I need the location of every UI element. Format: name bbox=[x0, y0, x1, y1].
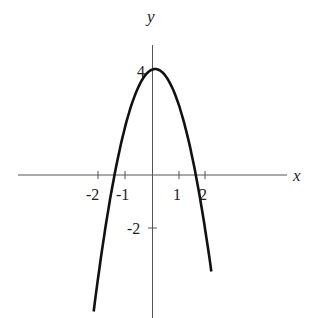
y-tick-label: -2 bbox=[127, 220, 140, 237]
x-tick-label: -1 bbox=[116, 186, 129, 203]
x-tick-label: 1 bbox=[173, 186, 181, 203]
y-axis-label: y bbox=[145, 7, 155, 26]
chart: x y -2 -1 1 2 4 -2 bbox=[0, 0, 310, 318]
x-axis-label: x bbox=[292, 166, 301, 185]
x-tick-label: -2 bbox=[86, 186, 99, 203]
parabola-plot: x y -2 -1 1 2 4 -2 bbox=[0, 0, 310, 318]
